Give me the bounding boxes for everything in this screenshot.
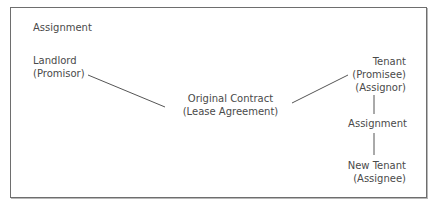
tenant-label: Tenant: [373, 55, 406, 68]
new-tenant-label: New Tenant: [348, 159, 406, 172]
contract-detail: (Lease Agreement): [168, 105, 293, 118]
new-tenant-role: (Assignee): [353, 172, 406, 185]
edge-landlord-contract: [88, 75, 165, 107]
diagram-title: Assignment: [33, 21, 92, 34]
tenant-role-promisee: (Promisee): [352, 68, 406, 81]
landlord-label: Landlord: [33, 54, 77, 67]
tenant-role-assignor: (Assignor): [355, 81, 406, 94]
contract-label: Original Contract: [168, 92, 293, 105]
assignment-label: Assignment: [348, 117, 407, 130]
landlord-role: (Promisor): [33, 67, 85, 80]
edge-contract-tenant: [292, 75, 348, 103]
